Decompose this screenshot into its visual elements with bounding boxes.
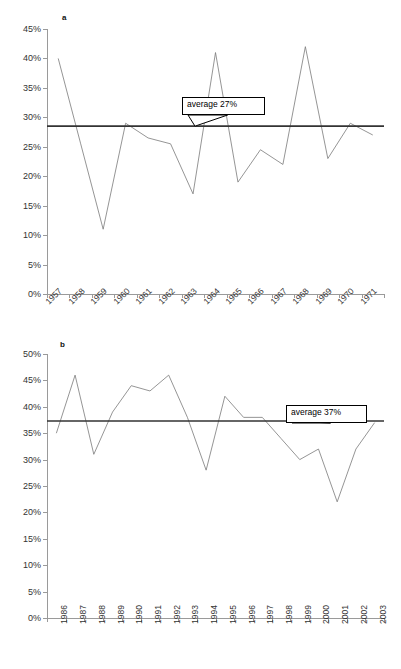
x-axis-tick-label: 1991 (154, 605, 163, 624)
y-axis-tick-label: 25% (23, 142, 41, 151)
x-axis-tick-label: 2001 (341, 605, 350, 624)
y-axis-tick-label: 5% (28, 260, 41, 269)
x-axis-tick-label: 1994 (210, 605, 219, 624)
callout-pointer (188, 115, 228, 126)
y-axis-tick-label: 30% (23, 113, 41, 122)
average-callout-label: average 27% (182, 97, 265, 115)
y-axis-tick-label: 5% (28, 587, 41, 596)
x-axis-tick (384, 294, 385, 298)
y-axis-tick-label: 0% (28, 614, 41, 623)
plot-area-a: average 27% (47, 29, 384, 294)
x-axis-tick-label: 1997 (266, 605, 275, 624)
x-axis-tick-label: 1986 (60, 605, 69, 624)
data-series-line (56, 375, 374, 502)
x-axis-tick-label: 1996 (248, 605, 257, 624)
x-axis-tick-label: 2000 (322, 605, 331, 624)
y-axis-tick-label: 40% (23, 402, 41, 411)
x-axis-tick-label: 2002 (360, 605, 369, 624)
y-axis-tick-label: 15% (23, 201, 41, 210)
average-callout-label: average 37% (286, 405, 367, 423)
x-axis-tick-label: 1992 (173, 605, 182, 624)
plot-area-b: average 37% (47, 354, 384, 618)
x-axis-tick-label: 2003 (379, 605, 388, 624)
chart-panel-b: b 50%45%40%35%30%25%20%15%10%5%0% averag… (0, 330, 401, 669)
y-axis-tick-label: 20% (23, 508, 41, 517)
y-axis-tick-label: 10% (23, 561, 41, 570)
y-axis-tick-label: 15% (23, 534, 41, 543)
y-axis-tick-label: 35% (23, 429, 41, 438)
y-axis-tick-label: 10% (23, 231, 41, 240)
y-axis-tick-label: 30% (23, 455, 41, 464)
x-axis-tick-label: 1999 (304, 605, 313, 624)
x-axis-tick-label: 1998 (285, 605, 294, 624)
x-axis-tick-label: 1988 (98, 605, 107, 624)
x-axis-tick-label: 1989 (117, 605, 126, 624)
x-axis-labels-a: 1957195819591960196119621963196419651966… (0, 0, 401, 60)
y-axis-tick-label: 0% (28, 290, 41, 299)
y-axis-tick-label: 20% (23, 172, 41, 181)
chart-panel-a: a 45%40%35%30%25%20%15%10%5%0% average 2… (0, 0, 401, 340)
y-axis-tick-label: 25% (23, 482, 41, 491)
series-line-group (47, 354, 384, 618)
data-series-line (58, 47, 373, 230)
y-axis-tick-label: 35% (23, 83, 41, 92)
x-axis-tick-label: 1987 (79, 605, 88, 624)
x-axis-tick-label: 1995 (229, 605, 238, 624)
x-axis-tick (47, 618, 48, 622)
series-line-group (47, 29, 384, 294)
x-axis-tick-label: 1990 (135, 605, 144, 624)
x-axis-labels-b: 1986198719881989199019911992199319941995… (0, 330, 401, 390)
x-axis-tick-label: 1993 (191, 605, 200, 624)
